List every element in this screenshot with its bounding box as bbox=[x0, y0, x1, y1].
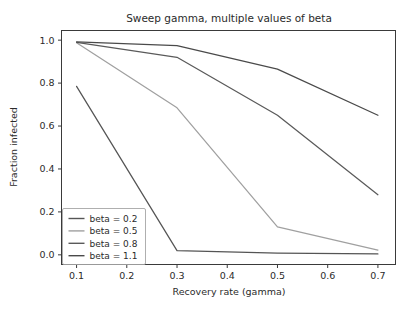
x-tick-label: 0.2 bbox=[119, 270, 134, 281]
x-tick-label: 0.5 bbox=[270, 270, 285, 281]
chart-figure: Sweep gamma, multiple values of beta 0.1… bbox=[0, 0, 420, 312]
chart-title: Sweep gamma, multiple values of beta bbox=[126, 12, 332, 24]
legend-label-3[interactable]: beta = 1.1 bbox=[90, 251, 138, 261]
x-tick-label: 0.6 bbox=[320, 270, 335, 281]
y-tick-label: 0.8 bbox=[39, 77, 54, 88]
y-axis-label: Fraction infected bbox=[8, 107, 19, 187]
y-tick-label: 0.4 bbox=[39, 163, 54, 174]
y-tick-label: 0.2 bbox=[39, 206, 54, 217]
x-axis-label: Recovery rate (gamma) bbox=[173, 286, 286, 297]
x-tick-label: 0.7 bbox=[370, 270, 385, 281]
x-tick-label: 0.4 bbox=[220, 270, 235, 281]
y-tick-label: 1.0 bbox=[39, 35, 54, 46]
figure-background bbox=[0, 0, 420, 312]
line-chart: Sweep gamma, multiple values of beta 0.1… bbox=[0, 0, 420, 312]
legend-label-0[interactable]: beta = 0.2 bbox=[90, 214, 138, 224]
legend-label-1[interactable]: beta = 0.5 bbox=[90, 226, 138, 236]
legend-label-2[interactable]: beta = 0.8 bbox=[90, 239, 138, 249]
y-tick-label: 0.6 bbox=[39, 120, 54, 131]
x-tick-label: 0.3 bbox=[169, 270, 184, 281]
x-tick-label: 0.1 bbox=[69, 270, 84, 281]
chart-legend[interactable]: beta = 0.2beta = 0.5beta = 0.8beta = 1.1 bbox=[63, 209, 146, 265]
y-tick-label: 0.0 bbox=[39, 249, 54, 260]
